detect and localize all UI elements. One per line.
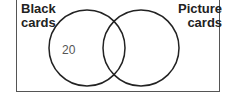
black-only-count: 20 (62, 43, 75, 57)
black-cards-label-line2: cards (21, 16, 56, 30)
picture-cards-label-line2: cards (178, 16, 222, 30)
picture-cards-label: Picture cards (178, 2, 222, 30)
picture-cards-label-line1: Picture (178, 2, 222, 16)
picture-cards-circle (103, 10, 179, 86)
black-cards-label: Black cards (21, 2, 56, 30)
black-cards-label-line1: Black (21, 2, 56, 16)
